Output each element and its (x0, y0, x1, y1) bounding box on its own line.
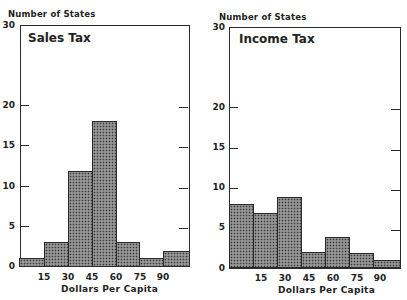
y-tick-label: 0 (1, 261, 15, 271)
y-axis-label: Number of States (8, 9, 96, 19)
chart-title: Income Tax (239, 32, 315, 46)
x-tick-label: 45 (299, 273, 319, 283)
y-tick (20, 226, 29, 227)
y-tick-label: 20 (211, 102, 225, 112)
chart-title: Sales Tax (28, 31, 91, 45)
x-tick-label: 90 (153, 272, 173, 282)
bar-60-75 (325, 237, 350, 268)
y-tick-label: 30 (211, 22, 225, 32)
y-tick-label: 15 (1, 140, 15, 150)
x-tick-label: 45 (82, 272, 102, 282)
x-tick-label: 15 (251, 273, 271, 283)
y-tick-label: 30 (1, 20, 15, 30)
x-tick-label: 60 (106, 272, 126, 282)
x-axis-label: Dollars Per Capita (61, 284, 158, 294)
x-axis-label: Dollars Per Capita (278, 285, 375, 295)
x-tick-label: 75 (347, 273, 367, 283)
y-tick (20, 105, 29, 106)
x-tick-label: 75 (130, 272, 150, 282)
y-tick-label: 0 (211, 263, 225, 273)
y-tick-right (391, 190, 400, 191)
y-tick-right (179, 107, 188, 108)
bar-30-45 (277, 197, 302, 268)
bar-15-30 (253, 213, 278, 268)
sales-tax-chart: Number of States Sales Tax 30 20 15 10 5… (0, 0, 200, 300)
x-tick-label: 30 (58, 272, 78, 282)
bar-45-60 (301, 252, 326, 268)
y-tick-right (391, 150, 400, 151)
y-tick (229, 107, 238, 108)
y-tick-label: 10 (1, 181, 15, 191)
y-tick (229, 188, 238, 189)
bar-90-plus (163, 251, 190, 267)
y-axis-label: Number of States (219, 12, 307, 22)
y-tick (20, 145, 29, 146)
x-tick-label: 90 (370, 273, 390, 283)
x-tick-label: 60 (323, 273, 343, 283)
bar-15-30 (44, 242, 69, 267)
y-tick-right (179, 147, 188, 148)
bar-45-60 (92, 121, 117, 267)
income-tax-chart: Number of States Income Tax 30 20 15 10 … (208, 0, 407, 300)
y-tick-right (179, 228, 188, 229)
y-tick-label: 20 (1, 100, 15, 110)
y-tick (229, 148, 238, 149)
bar-90-plus (373, 260, 401, 268)
bar-60-75 (116, 242, 140, 267)
bar-30-45 (68, 171, 93, 267)
y-tick-right (179, 188, 188, 189)
x-tick-label: 30 (275, 273, 295, 283)
y-tick-label: 5 (211, 222, 225, 232)
bar-75-90 (349, 253, 374, 268)
y-tick-label: 10 (211, 182, 225, 192)
bar-0-15 (19, 258, 45, 267)
y-tick-label: 15 (211, 142, 225, 152)
y-tick-label: 5 (1, 221, 15, 231)
y-tick-right (391, 230, 400, 231)
y-tick (20, 186, 29, 187)
bar-0-15 (229, 204, 254, 268)
x-tick-label: 15 (34, 272, 54, 282)
y-tick-right (391, 109, 400, 110)
bar-75-90 (139, 258, 164, 267)
